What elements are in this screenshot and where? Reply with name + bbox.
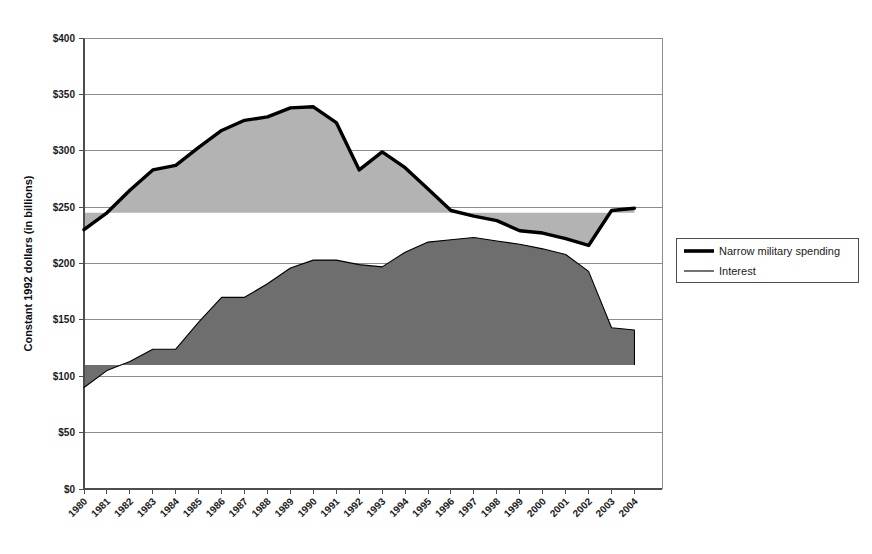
y-tick-label: $0: [64, 484, 76, 495]
y-axis-title: Constant 1992 dollars (in billions): [22, 175, 34, 351]
chart-container: $0$50$100$150$200$250$300$350$400 198019…: [0, 0, 872, 554]
y-tick-label: $50: [58, 427, 75, 438]
y-tick-label: $200: [53, 258, 76, 269]
y-tick-label: $300: [53, 145, 76, 156]
y-axis-title-label: Constant 1992 dollars (in billions): [22, 175, 34, 351]
chart-legend: Narrow military spendingInterest: [676, 238, 858, 282]
y-tick-label: $350: [53, 89, 76, 100]
y-tick-label: $150: [53, 314, 76, 325]
legend-label-0: Narrow military spending: [719, 245, 840, 257]
y-tick-label: $400: [53, 33, 76, 44]
legend-label-1: Interest: [719, 265, 756, 277]
spending-interest-area-chart: $0$50$100$150$200$250$300$350$400 198019…: [0, 0, 872, 554]
y-tick-label: $100: [53, 371, 76, 382]
y-tick-label: $250: [53, 202, 76, 213]
